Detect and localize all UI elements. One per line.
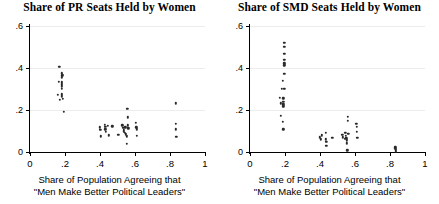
- chart-panel-smd: Share of SMD Seats Held by Women 0.2.4.6…: [220, 0, 439, 204]
- scatter-point: [127, 127, 129, 129]
- scatter-point: [99, 129, 101, 131]
- scatter-point: [356, 126, 358, 128]
- scatter-point: [347, 132, 349, 134]
- y-axis-tick: [26, 26, 30, 27]
- plot-area-smd: 0.2.4.60.2.4.6.81: [250, 26, 425, 152]
- y-axis-tick: [246, 110, 250, 111]
- scatter-point: [136, 134, 138, 136]
- x-axis-tick: [30, 152, 31, 156]
- x-axis-tick-label: .2: [61, 158, 69, 169]
- y-axis-tick-label: .4: [229, 63, 243, 73]
- scatter-point: [174, 102, 176, 104]
- scatter-point: [331, 137, 333, 139]
- scatter-point: [57, 80, 59, 82]
- x-axis-tick-label: .4: [96, 158, 104, 169]
- gridline-y: [250, 68, 425, 69]
- scatter-point: [356, 131, 358, 133]
- scatter-point: [280, 115, 282, 117]
- x-axis-tick: [170, 152, 171, 156]
- x-axis-tick: [320, 152, 321, 156]
- scatter-point: [283, 58, 285, 60]
- x-axis-tick-label: 0: [27, 158, 32, 169]
- scatter-point: [107, 125, 109, 127]
- x-axis-tick-label: .8: [166, 158, 174, 169]
- x-axis-tick-label: 1: [422, 158, 427, 169]
- scatter-point: [127, 124, 129, 126]
- scatter-point: [57, 94, 59, 96]
- y-axis-tick: [26, 68, 30, 69]
- x-axis-tick: [250, 152, 251, 156]
- y-axis-tick: [26, 110, 30, 111]
- y-axis-tick: [246, 26, 250, 27]
- scatter-point: [62, 111, 64, 113]
- y-axis-tick-label: .4: [9, 63, 23, 73]
- y-axis-tick-label: .2: [229, 105, 243, 115]
- y-axis-tick-label: 0: [229, 147, 243, 157]
- gridline-y: [30, 110, 205, 111]
- scatter-point: [62, 98, 64, 100]
- scatter-point: [61, 76, 63, 78]
- scatter-point: [346, 149, 348, 151]
- x-axis-tick-label: 0: [247, 158, 252, 169]
- scatter-point: [283, 64, 285, 66]
- x-axis-caption-line1: Share of Population Agreeing that: [220, 174, 439, 186]
- x-axis-tick: [285, 152, 286, 156]
- scatter-point: [346, 142, 348, 144]
- x-axis-caption-line2: "Men Make Better Political Leaders": [0, 186, 219, 198]
- scatter-point: [283, 53, 285, 55]
- scatter-point: [283, 46, 285, 48]
- y-axis-tick-label: .2: [9, 105, 23, 115]
- chart-panel-pr: Share of PR Seats Held by Women 0.2.4.60…: [0, 0, 219, 204]
- scatter-point: [111, 125, 113, 127]
- scatter-point: [319, 138, 321, 140]
- x-axis-tick-label: .8: [386, 158, 394, 169]
- x-axis-tick: [390, 152, 391, 156]
- chart-title-pr: Share of PR Seats Held by Women: [0, 1, 219, 13]
- x-axis-tick-label: .2: [281, 158, 289, 169]
- scatter-point: [60, 88, 62, 90]
- scatter-point: [281, 79, 283, 81]
- scatter-point: [356, 137, 358, 139]
- scatter-point: [125, 142, 127, 144]
- scatter-point: [347, 119, 349, 121]
- scatter-point: [281, 120, 283, 122]
- scatter-point: [324, 132, 326, 134]
- x-axis-tick-label: .6: [131, 158, 139, 169]
- x-axis-caption-smd: Share of Population Agreeing that "Men M…: [220, 174, 439, 198]
- scatter-point: [175, 136, 177, 138]
- y-axis-tick: [246, 68, 250, 69]
- scatter-point: [108, 134, 110, 136]
- scatter-point: [283, 73, 285, 75]
- x-axis-tick-label: 1: [202, 158, 207, 169]
- chart-title-smd: Share of SMD Seats Held by Women: [220, 1, 439, 13]
- scatter-point: [117, 134, 119, 136]
- x-axis-caption-line1: Share of Population Agreeing that: [0, 174, 219, 186]
- scatter-point: [325, 144, 327, 146]
- scatter-point: [282, 97, 284, 99]
- x-axis-tick: [100, 152, 101, 156]
- scatter-point: [100, 135, 102, 137]
- gridline-y: [30, 26, 205, 27]
- scatter-point: [282, 105, 284, 107]
- plot-area-pr: 0.2.4.60.2.4.6.81: [30, 26, 205, 152]
- gridline-y: [30, 68, 205, 69]
- x-axis-tick-label: .6: [351, 158, 359, 169]
- x-axis-tick: [135, 152, 136, 156]
- scatter-point: [135, 121, 137, 123]
- x-axis-tick-label: .4: [316, 158, 324, 169]
- y-axis-tick-label: .6: [229, 21, 243, 31]
- scatter-point: [279, 97, 281, 99]
- x-axis-tick: [355, 152, 356, 156]
- x-axis-tick: [65, 152, 66, 156]
- scatter-point: [125, 135, 127, 137]
- scatter-point: [283, 42, 285, 44]
- y-axis-tick-label: 0: [9, 147, 23, 157]
- scatter-point: [175, 122, 177, 124]
- x-axis-tick: [205, 152, 206, 156]
- x-axis-line-pr: [29, 152, 206, 153]
- scatter-point: [321, 134, 323, 136]
- y-axis-tick-label: .6: [9, 21, 23, 31]
- scatter-point: [355, 122, 357, 124]
- scatter-point: [282, 128, 284, 130]
- gridline-y: [250, 110, 425, 111]
